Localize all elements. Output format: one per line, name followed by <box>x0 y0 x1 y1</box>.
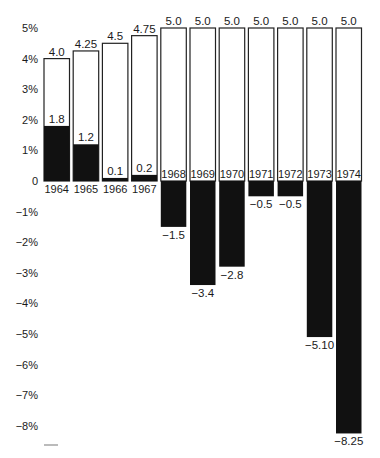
outline-value-label: 4.75 <box>133 23 155 35</box>
y-tick-label: −4% <box>16 297 39 309</box>
outline-value-label: 5.0 <box>282 15 298 27</box>
outline-bar <box>278 28 304 181</box>
filled-bar <box>248 181 274 196</box>
outline-value-label: 5.0 <box>312 15 328 27</box>
outline-bar <box>161 28 187 181</box>
outline-value-label: 5.0 <box>166 15 182 27</box>
outline-value-label: 4.25 <box>75 38 97 50</box>
y-tick-label: 1% <box>22 144 38 156</box>
year-label: 1967 <box>132 183 156 195</box>
outline-value-label: 5.0 <box>195 15 211 27</box>
filled-bar <box>161 181 187 227</box>
y-tick-label: 3% <box>22 83 38 95</box>
filled-value-label: −3.4 <box>191 287 214 299</box>
filled-bar <box>278 181 304 196</box>
filled-value-label: 1.2 <box>78 131 94 143</box>
filled-value-label: 1.8 <box>49 113 65 125</box>
filled-bar <box>102 178 128 181</box>
y-tick-label: −8% <box>16 420 39 432</box>
filled-value-label: −0.5 <box>250 198 273 210</box>
filled-value-label: 0.2 <box>136 162 152 174</box>
year-label: 1966 <box>103 183 127 195</box>
year-label: 1974 <box>337 168 361 180</box>
y-tick-label: −3% <box>16 267 39 279</box>
y-tick-label: −7% <box>16 389 39 401</box>
year-label: 1970 <box>220 168 244 180</box>
year-label: 1973 <box>307 168 331 180</box>
filled-bar <box>307 181 333 337</box>
y-tick-label: −2% <box>16 236 39 248</box>
outline-bar <box>190 28 216 181</box>
filled-value-label: −8.25 <box>334 435 363 447</box>
filled-value-label: −2.8 <box>221 269 244 281</box>
filled-bar <box>44 126 70 181</box>
outline-bar <box>336 28 362 181</box>
outline-bar <box>248 28 274 181</box>
filled-bar <box>219 181 245 267</box>
y-tick-label: −6% <box>16 359 39 371</box>
filled-value-label: −0.5 <box>279 198 302 210</box>
outline-bar <box>219 28 245 181</box>
filled-value-label: −1.5 <box>162 229 185 241</box>
year-label: 1968 <box>161 168 185 180</box>
year-label: 1969 <box>191 168 215 180</box>
outline-value-label: 5.0 <box>341 15 357 27</box>
bar-chart: 5%4%3%2%1%0−1%−2%−3%−4%−5%−6%−7%−8% 4.01… <box>0 0 380 458</box>
outline-value-label: 5.0 <box>253 15 269 27</box>
y-tick-label: 0 <box>32 175 38 187</box>
filled-bar <box>132 175 158 181</box>
y-tick-label: 4% <box>22 53 38 65</box>
y-tick-label: −1% <box>16 206 39 218</box>
outline-value-label: 4.0 <box>49 46 65 58</box>
year-label: 1972 <box>278 168 302 180</box>
y-tick-label: 5% <box>22 22 38 34</box>
outline-value-label: 4.5 <box>107 30 123 42</box>
outline-value-label: 5.0 <box>224 15 240 27</box>
outline-bar <box>132 36 158 181</box>
year-label: 1964 <box>45 183 69 195</box>
filled-bar <box>73 144 99 181</box>
year-label: 1971 <box>249 168 273 180</box>
filled-bar <box>190 181 216 285</box>
filled-bar <box>336 181 362 433</box>
y-tick-label: −5% <box>16 328 39 340</box>
y-tick-label: 2% <box>22 114 38 126</box>
legend-swatch <box>44 444 58 446</box>
outline-bar <box>102 43 128 181</box>
y-axis: 5%4%3%2%1%0−1%−2%−3%−4%−5%−6%−7%−8% <box>16 22 39 432</box>
filled-value-label: −5.10 <box>305 339 334 351</box>
year-label: 1965 <box>74 183 98 195</box>
outline-bar <box>307 28 333 181</box>
filled-value-label: 0.1 <box>107 165 123 177</box>
